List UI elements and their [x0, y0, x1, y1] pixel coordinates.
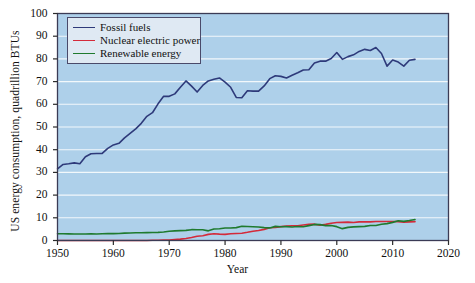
legend-entry-2: Renewable energy	[71, 47, 196, 60]
legend-entry-label: Nuclear electric power	[100, 34, 200, 47]
chart-legend: Fossil fuelsNuclear electric powerRenewa…	[67, 17, 201, 64]
energy-consumption-line-chart: US energy consumption, quadrillion BTUs …	[0, 0, 475, 283]
legend-entry-label: Fossil fuels	[100, 21, 150, 34]
legend-line-swatch-icon	[73, 27, 95, 28]
legend-entry-0: Fossil fuels	[71, 21, 196, 34]
legend-entry-label: Renewable energy	[100, 47, 181, 60]
legend-line-swatch-icon	[73, 40, 95, 41]
legend-entry-1: Nuclear electric power	[71, 34, 196, 47]
legend-line-swatch-icon	[73, 53, 95, 54]
